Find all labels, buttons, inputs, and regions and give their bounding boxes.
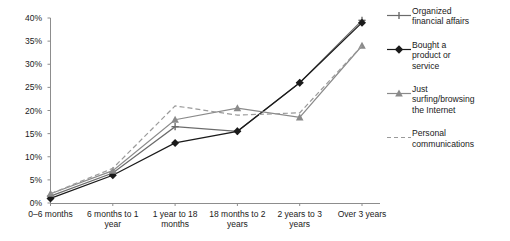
- legend-item[interactable]: Personal communications: [386, 128, 510, 149]
- data-point-triangle-icon: [234, 104, 242, 111]
- legend-marker-diamond-icon: [386, 41, 412, 52]
- series-organized-financial-affairs: [47, 17, 366, 200]
- chart-legend: Organized financial affairs Bought a pro…: [386, 6, 510, 162]
- legend-item-label: Just surfing/browsing the Internet: [412, 84, 475, 115]
- legend-marker-dashed-icon: [386, 129, 412, 140]
- legend-marker-triangle-icon: [386, 85, 412, 96]
- data-point-diamond-icon: [171, 139, 179, 147]
- legend-item[interactable]: Just surfing/browsing the Internet: [386, 84, 510, 115]
- data-point-triangle-icon: [358, 42, 366, 49]
- legend-item-label: Personal communications: [412, 128, 474, 149]
- legend-marker-cross-icon: [386, 7, 412, 18]
- legend-item-label: Bought a product or service: [412, 40, 451, 71]
- legend-item[interactable]: Bought a product or service: [386, 40, 510, 71]
- series-line: [51, 20, 363, 196]
- chart-series-group: [47, 17, 367, 203]
- legend-item-label: Organized financial affairs: [412, 6, 469, 27]
- chart-container: 0%5%10%15%20%25%30%35%40% 0–6 months6 mo…: [0, 0, 510, 241]
- legend-item[interactable]: Organized financial affairs: [386, 6, 510, 27]
